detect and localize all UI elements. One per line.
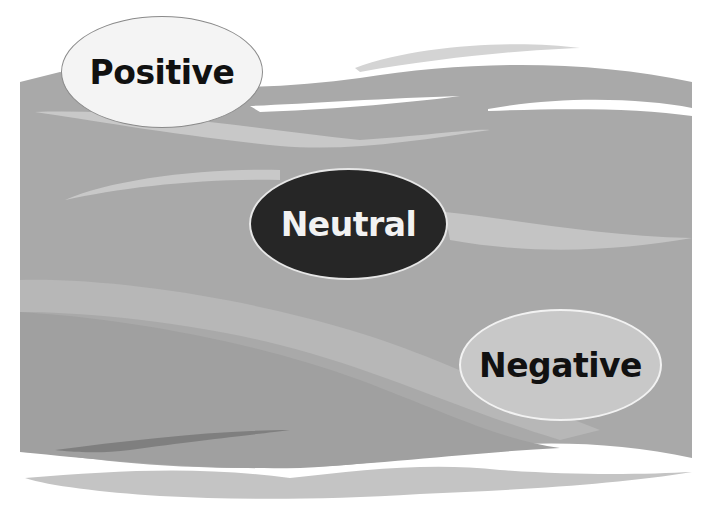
negative-ellipse: Negative — [459, 309, 662, 421]
negative-label: Negative — [479, 346, 642, 385]
neutral-ellipse: Neutral — [249, 168, 448, 280]
bottom-light-wave — [25, 467, 692, 499]
positive-label: Positive — [90, 53, 235, 92]
positive-ellipse: Positive — [61, 16, 263, 128]
neutral-label: Neutral — [281, 205, 417, 244]
